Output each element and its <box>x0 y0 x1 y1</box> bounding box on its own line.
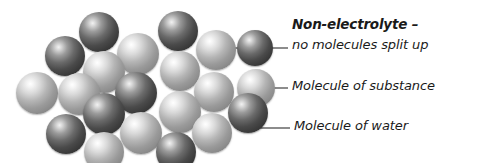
label-molecule-of-substance: Molecule of substance <box>292 78 435 93</box>
molecule-sphere-water <box>237 30 273 66</box>
molecule-sphere-water <box>79 12 119 52</box>
molecule-sphere-substance <box>196 30 236 70</box>
molecule-sphere-substance <box>192 113 232 153</box>
label-no-molecules-split-up: no molecules split up <box>292 37 428 52</box>
label-molecule-of-water: Molecule of water <box>294 118 408 133</box>
molecule-sphere-water <box>46 114 86 154</box>
molecule-sphere-substance <box>16 72 58 114</box>
molecule-sphere-water <box>45 36 85 76</box>
molecule-sphere-water <box>83 93 125 135</box>
molecule-sphere-water <box>158 11 198 51</box>
non-electrolyte-diagram: Non-electrolyte – no molecules split up … <box>0 0 479 163</box>
label-non-electrolyte: Non-electrolyte – <box>292 16 418 32</box>
molecule-sphere-water <box>228 93 268 133</box>
